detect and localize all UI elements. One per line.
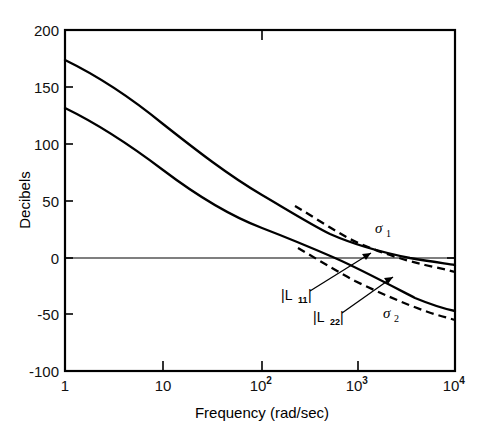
sigma-1-label: σ <box>375 220 383 236</box>
y-tick-label-100: 100 <box>34 136 59 153</box>
L22-subscript: 22 <box>330 317 340 327</box>
sigma-2-label: σ <box>383 305 391 321</box>
x-tick-label-10: 10 <box>155 377 172 394</box>
x-tick-label-100: 10 <box>250 377 267 394</box>
x-tick-label-10000: 10 <box>443 377 460 394</box>
x-tick-label-1: 1 <box>61 377 69 394</box>
L22-label: |L <box>313 309 325 325</box>
chart-svg: 200 150 100 50 0 -50 -100 1 10 10 2 10 3… <box>0 0 487 441</box>
y-tick-label-neg50: -50 <box>37 306 59 323</box>
sigma-2-subscript: 2 <box>394 313 399 324</box>
L11-label: |L <box>281 287 293 303</box>
L11-label-close: | <box>308 287 312 303</box>
L22-label-close: | <box>340 309 344 325</box>
x-axis-title: Frequency (rad/sec) <box>195 404 329 421</box>
y-tick-label-0: 0 <box>51 250 59 267</box>
x-tick-exponent-10000: 4 <box>459 375 465 386</box>
y-tick-label-200: 200 <box>34 22 59 39</box>
sigma-1-subscript: 1 <box>386 228 391 239</box>
y-tick-label-neg100: -100 <box>29 363 59 380</box>
y-axis-title: Decibels <box>16 171 33 229</box>
L11-subscript: 11 <box>298 295 308 305</box>
bode-magnitude-chart: 200 150 100 50 0 -50 -100 1 10 10 2 10 3… <box>0 0 487 441</box>
y-tick-label-50: 50 <box>42 193 59 210</box>
x-tick-label-1000: 10 <box>346 377 363 394</box>
x-tick-exponent-1000: 3 <box>362 375 368 386</box>
x-tick-exponent-100: 2 <box>266 375 272 386</box>
y-tick-label-150: 150 <box>34 79 59 96</box>
